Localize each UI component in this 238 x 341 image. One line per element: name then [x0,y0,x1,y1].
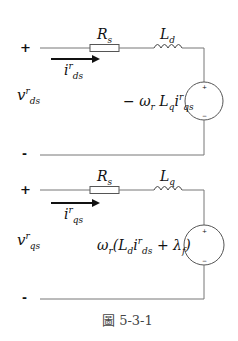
terminal-minus: - [22,148,27,160]
source-label-q: ωr(Ldirds + λf) [97,238,191,252]
figure-caption: 圖 5-3-1 [102,310,153,329]
source-label-d: − ωr Lqirqs [123,94,194,108]
inductor-label-ld: Ld [160,27,175,41]
voltage-label-vds: vrds [17,88,40,103]
source-minus: − [202,258,207,264]
source-minus: − [202,113,207,119]
inductor-lq [154,187,182,191]
resistor-label-rs: Rs [97,169,112,183]
voltage-label-vqs: vrqs [17,233,40,248]
circuit-diagram [0,0,238,341]
inductor-label-lq: Lq [160,169,175,183]
source-plus: + [202,228,207,234]
resistor-label-rs: Rs [97,27,112,41]
current-label-ids: irds [64,63,83,77]
resistor-rs [90,187,119,194]
inductor-ld [154,45,182,49]
resistor-rs [90,45,119,52]
current-label-iqs: irqs [64,207,83,221]
terminal-plus: + [20,183,31,196]
source-plus: + [202,84,207,90]
terminal-minus: - [22,292,27,304]
terminal-plus: + [20,41,31,54]
